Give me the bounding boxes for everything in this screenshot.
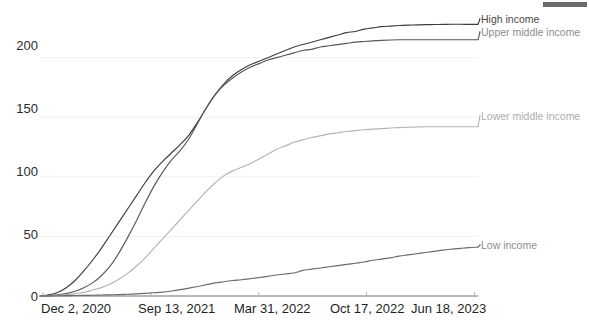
y-tick-label-50: 50 [4,228,38,241]
x-tick-label-4: Jun 18, 2023 [411,302,486,315]
line-chart-container: 200 150 100 50 0 Dec 2, 2020 Sep 13, 202… [0,0,589,328]
gridlines [40,58,478,237]
x-tick-label-3: Oct 17, 2022 [330,302,404,315]
leader-line-upper-middle-income [478,32,480,40]
label-leader-lines [478,19,480,247]
data-series-lines [40,24,478,296]
series-line-high-income [40,24,478,296]
y-tick-label-0: 0 [4,290,38,303]
plot-area [0,0,589,328]
x-tick-label-1: Sep 13, 2021 [138,302,215,315]
series-label-high-income: High income [481,14,539,25]
x-tick-label-2: Mar 31, 2022 [234,302,311,315]
x-tick-label-0: Dec 2, 2020 [41,302,111,315]
y-tick-label-100: 100 [4,165,38,178]
leader-line-low-income [478,245,480,247]
series-label-lower-middle-income: Lower middle income [481,111,580,122]
series-label-upper-middle-income: Upper middle income [481,27,580,38]
y-tick-label-150: 150 [4,102,38,115]
series-label-low-income: Low income [481,240,537,251]
leader-line-lower-middle-income [478,116,480,127]
y-tick-label-200: 200 [4,39,38,52]
leader-line-high-income [478,19,480,24]
series-line-upper-middle-income [40,40,478,296]
